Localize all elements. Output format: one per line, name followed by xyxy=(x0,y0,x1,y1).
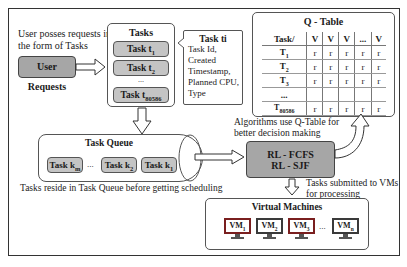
table-row: T1 rr rr r xyxy=(262,46,386,60)
arrow-right-icon xyxy=(75,58,107,76)
task-item: Task t1 xyxy=(113,41,169,57)
table-row: ... xyxy=(262,88,386,102)
queue-note: Tasks reside in Task Queue before gettin… xyxy=(20,183,222,195)
user-requests-box: User Requests xyxy=(18,56,76,78)
queue-item: Task k2 xyxy=(101,157,137,173)
arrow-down-icon xyxy=(284,178,300,196)
task-attributes-callout: Task ti Task Id, Created Timestamp, Plan… xyxy=(183,30,243,105)
callout-pointer xyxy=(177,38,185,48)
queue-item: Task km xyxy=(47,157,83,173)
arrow-down-icon xyxy=(132,107,152,135)
virtual-machines-box: Virtual Machines VM1 VM2 VM3 ... VMn xyxy=(205,198,369,250)
tasks-box: Tasks Task t1 Task t2 ... Task t80586 xyxy=(107,23,175,107)
vm-icon: VM1 xyxy=(224,218,251,240)
queue-item: Task k1 xyxy=(141,157,177,173)
vm-icon: VMn xyxy=(332,218,359,240)
table-row: T3 rr rr r xyxy=(262,74,386,88)
algorithm-note: Algorithms use Q-Table for better decisi… xyxy=(234,117,339,138)
q-table: Task/ V V V ... V T1 rr rr r T2 rr rr r … xyxy=(262,32,386,116)
arrow-right-icon xyxy=(194,149,246,165)
vm-icon: VM2 xyxy=(256,218,283,240)
task-item: Task t2 xyxy=(113,60,169,76)
task-item: Task t80586 xyxy=(113,87,169,103)
submit-note: Tasks submitted to VMs for processing xyxy=(306,178,398,200)
vm-icon: VM3 xyxy=(288,218,315,240)
table-row: T2 rr rr r xyxy=(262,60,386,74)
curved-arrow-up-icon xyxy=(334,112,370,160)
user-note: User posses requests in the form of Task… xyxy=(18,28,111,51)
rl-algorithms-box: RL - FCFS RL - SJF xyxy=(246,141,335,178)
q-table-box: Q - Table Task/ V V V ... V T1 rr rr r T… xyxy=(252,12,395,117)
